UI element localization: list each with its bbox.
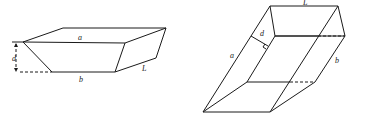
right-bottom-left-edge <box>203 82 247 112</box>
left-label-b: b <box>79 75 83 84</box>
left-label-a: a <box>78 33 82 42</box>
right-label-d: d <box>260 29 265 38</box>
left-front-face-outline <box>23 42 125 72</box>
depth-arrow-up-icon <box>14 43 18 47</box>
right-bottom-face-outline <box>203 82 315 112</box>
left-label-L: L <box>141 64 147 73</box>
depth-arrow-down-icon <box>14 68 18 72</box>
right-label-L: L <box>302 0 308 7</box>
left-prism-figure: a b L d <box>12 28 166 84</box>
right-edge-b <box>315 36 345 82</box>
right-edge-a-outer <box>203 6 270 112</box>
right-label-a: a <box>230 51 234 60</box>
right-edge-front-right <box>270 6 338 112</box>
right-prism-figure: L d a b <box>203 0 345 112</box>
right-top-face-outline <box>270 6 345 36</box>
right-edge-inner-left <box>247 36 275 82</box>
left-top-face-outline <box>23 28 166 43</box>
diagram-canvas: a b L d L d a b <box>0 0 365 121</box>
right-label-b: b <box>335 56 339 65</box>
